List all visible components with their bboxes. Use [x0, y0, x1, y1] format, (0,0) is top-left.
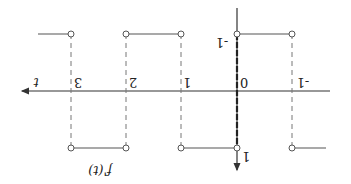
tick-label-0: 0 — [240, 75, 248, 90]
square-wave-plot: t 3 2 1 0 -1 -1 1 f'(t) — [0, 0, 351, 184]
level-label-lower: -1 — [216, 35, 229, 50]
level-label-upper: 1 — [242, 149, 250, 164]
t-axis-label: t — [33, 75, 39, 90]
tick-label-neg1: -1 — [297, 75, 310, 90]
function-label: f'(t) — [88, 163, 113, 178]
tick-label-2: 2 — [129, 75, 137, 90]
tick-label-3: 3 — [74, 75, 82, 90]
tick-label-1: 1 — [183, 75, 191, 90]
